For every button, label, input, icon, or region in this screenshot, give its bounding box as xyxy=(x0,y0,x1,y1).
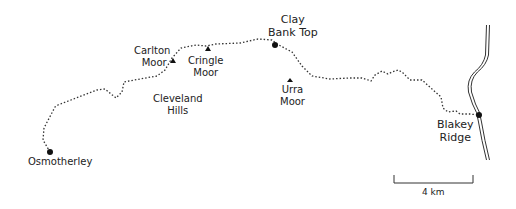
clay-bank-top-dot xyxy=(272,42,278,48)
label-urra-moor-line2: Moor xyxy=(280,96,305,108)
walking-route xyxy=(43,39,478,152)
label-cringle-moor: Cringle Moor xyxy=(188,55,224,79)
label-osmotherley: Osmotherley xyxy=(28,156,92,168)
label-cringle-moor-line1: Cringle xyxy=(188,55,224,67)
label-clay-bank-top: Clay Bank Top xyxy=(268,13,318,39)
blakey-ridge-dot xyxy=(476,112,482,118)
cringle-moor-peak-icon xyxy=(205,46,211,51)
label-carlton-moor: Carlton Moor xyxy=(134,45,170,69)
label-carlton-moor-line2: Moor xyxy=(134,57,170,69)
scale-bar xyxy=(394,175,473,183)
osmotherley-dot xyxy=(47,149,53,155)
label-clay-bank-top-line2: Bank Top xyxy=(268,26,318,39)
label-carlton-moor-line1: Carlton xyxy=(134,45,170,57)
label-clay-bank-top-line1: Clay xyxy=(268,13,318,26)
label-cleveland-hills: Cleveland Hills xyxy=(153,93,203,117)
label-cringle-moor-line2: Moor xyxy=(188,67,224,79)
scale-bar-label: 4 km xyxy=(422,186,445,198)
label-cleveland-hills-line2: Hills xyxy=(153,105,203,117)
label-cleveland-hills-line1: Cleveland xyxy=(153,93,203,105)
urra-moor-peak-icon xyxy=(287,78,293,82)
label-blakey-ridge-line2: Ridge xyxy=(437,131,474,144)
label-blakey-ridge-line1: Blakey xyxy=(437,118,474,131)
route-map xyxy=(0,0,516,209)
carlton-moor-peak-icon xyxy=(170,58,176,63)
label-urra-moor-line1: Urra xyxy=(280,84,305,96)
label-urra-moor: Urra Moor xyxy=(280,84,305,108)
label-blakey-ridge: Blakey Ridge xyxy=(437,118,474,144)
